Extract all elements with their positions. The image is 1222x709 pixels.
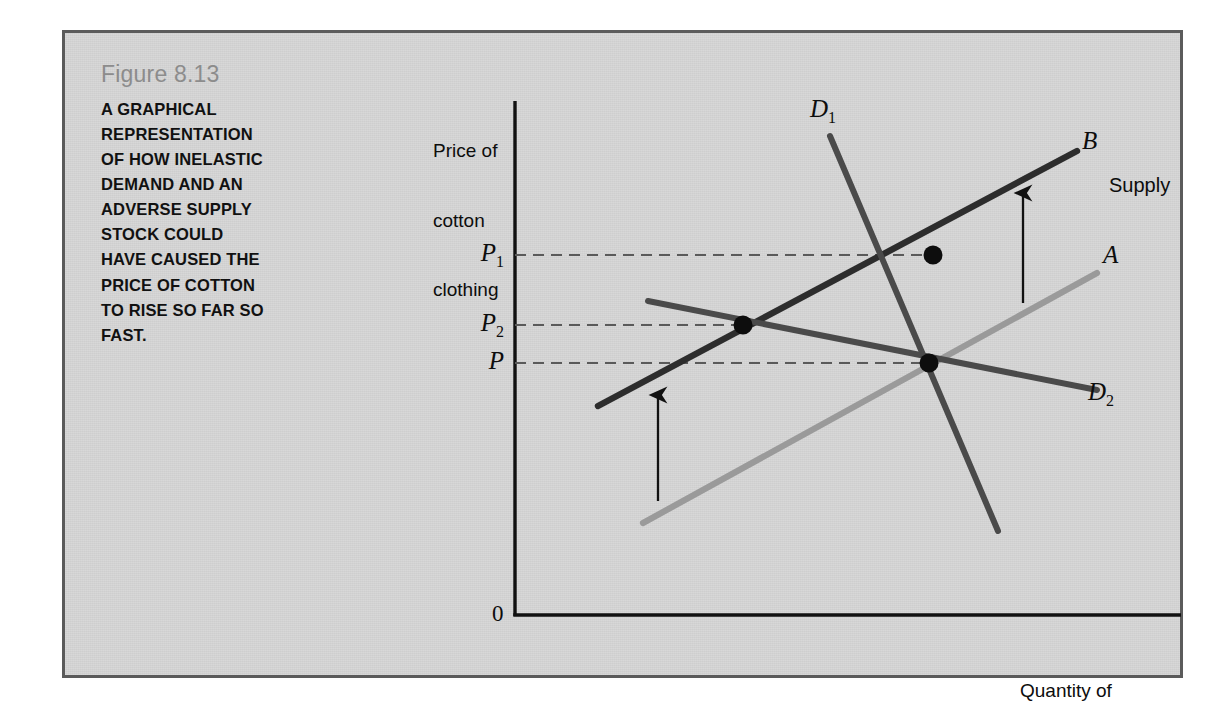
figure-panel: Figure 8.13 A GRAPHICAL REPRESENTATION O…: [62, 30, 1183, 678]
equilibrium-dot-p: [920, 354, 939, 373]
curve-label-d1-sub: 1: [828, 109, 836, 126]
supply-curve-b: [598, 151, 1077, 406]
figure-number: Figure 8.13: [101, 61, 351, 88]
price-label-p: P: [458, 347, 504, 375]
price-label-p1-sub: 1: [496, 253, 504, 270]
equilibrium-dot-p2: [734, 316, 753, 335]
x-axis-title-line: Quantity of: [1020, 679, 1143, 702]
caption-line: DEMAND AND AN: [101, 172, 351, 197]
x-axis-title: Quantity of cotton clothing: [1020, 633, 1143, 709]
curve-label-d2-sub: 2: [1106, 392, 1114, 409]
equilibrium-dot-p1: [924, 246, 943, 265]
caption-line: REPRESENTATION: [101, 122, 351, 147]
curve-label-d1: D1: [810, 95, 836, 127]
page-root: Figure 8.13 A GRAPHICAL REPRESENTATION O…: [0, 0, 1222, 709]
price-label-p2-base: P: [481, 309, 496, 336]
caption-line: HAVE CAUSED THE: [101, 247, 351, 272]
curve-label-d2-base: D: [1088, 378, 1106, 405]
y-axis-title-line: cotton: [433, 209, 499, 232]
caption-line: A GRAPHICAL: [101, 97, 351, 122]
curve-label-d1-base: D: [810, 95, 828, 122]
caption-line: STOCK COULD: [101, 222, 351, 247]
origin-label: 0: [492, 601, 504, 627]
curve-label-d2: D2: [1088, 378, 1114, 410]
curve-label-a: A: [1103, 241, 1118, 269]
price-label-p2: P2: [458, 309, 504, 341]
curve-label-b: B: [1082, 127, 1097, 155]
y-axis-title-line: Price of: [433, 139, 499, 162]
caption-line: ADVERSE SUPPLY: [101, 197, 351, 222]
demand-curve-d1: [830, 136, 998, 531]
price-label-p2-sub: 2: [496, 323, 504, 340]
price-label-p1-base: P: [481, 239, 496, 266]
supply-demand-chart: Price of cotton clothing Quantity of cot…: [355, 33, 1183, 678]
caption-line: PRICE OF COTTON: [101, 273, 351, 298]
figure-caption-text: A GRAPHICAL REPRESENTATION OF HOW INELAS…: [101, 97, 351, 348]
supply-group-label: Supply: [1109, 174, 1170, 197]
caption-line: FAST.: [101, 323, 351, 348]
price-label-p1: P1: [458, 239, 504, 271]
y-axis-title-line: clothing: [433, 278, 499, 301]
caption-line: OF HOW INELASTIC: [101, 147, 351, 172]
figure-caption-block: Figure 8.13 A GRAPHICAL REPRESENTATION O…: [101, 61, 351, 348]
caption-line: TO RISE SO FAR SO: [101, 298, 351, 323]
